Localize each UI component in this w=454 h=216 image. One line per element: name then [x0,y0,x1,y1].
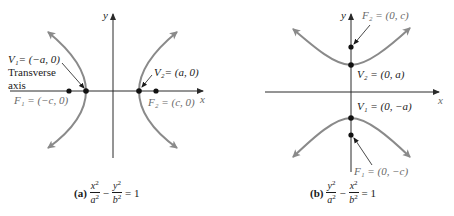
panel-b [265,14,439,172]
focus-f1-b [348,132,353,137]
x-axis-label-a: x [200,94,205,105]
f2-pointer-b [354,25,370,44]
vertex-v1-label-a: V₁= (−a, 0) [8,54,60,65]
caption-tag-a: (a) [74,187,87,199]
right-branch-upper [139,32,177,91]
top-branch-left [293,29,351,65]
bottom-branch-left [293,118,351,157]
fraction-x2-b2: x2 b2 [349,180,359,206]
transverse-axis-label-line2: axis [8,80,26,91]
vertex-v1-b [348,115,354,121]
eq-a-rhs: = 1 [125,187,139,199]
vertex-v2-b [348,62,354,68]
caption-b: (b) y2 a2 − x2 b2 = 1 [310,180,376,206]
eq-a-minus: − [103,187,109,199]
top-branch-right [351,28,410,65]
transverse-axis-label-line1: Transverse [8,67,56,78]
focus-f2-label-a: F₂ = (c, 0) [148,97,195,108]
caption-tag-b: (b) [310,187,323,199]
focus-f1-label-a: F₁ = (−c, 0) [14,95,68,106]
caption-a: (a) x2 a2 − y2 b2 = 1 [74,180,139,206]
bottom-branch-right [351,118,410,157]
v2-pointer-a [142,75,152,87]
y-axis-label-b: y [341,10,346,21]
eq-b-minus: − [339,187,345,199]
focus-f2-b [348,44,353,49]
eq-b-rhs: = 1 [362,187,376,199]
focus-f2-a [153,88,158,93]
vertex-v2-label-b: V₂ = (0, a) [357,69,404,80]
x-axis-label-b: x [438,95,443,106]
focus-f1-label-b: F₁ = (0, −c) [354,166,408,177]
y-axis-label-a: y [103,10,108,21]
panel-a [10,14,203,158]
vertex-v2-label-a: V₂= (a, 0) [154,67,199,78]
vertex-v1-label-b: V₁ = (0, −a) [357,101,412,112]
fraction-y2-a2: y2 a2 [326,180,336,206]
fraction-y2-b2: y2 b2 [112,180,122,206]
focus-f2-label-b: F₂ = (0, c) [362,10,409,21]
vertex-v1-a [83,88,89,94]
fraction-x2-a2: x2 a2 [90,180,100,206]
focus-f1-a [66,88,71,93]
v1-pointer-a [62,63,84,88]
f1-pointer-b [354,138,372,165]
vertex-v2-a [136,88,142,94]
